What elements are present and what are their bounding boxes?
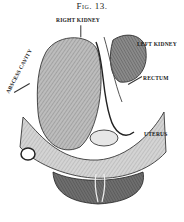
uterus-shape — [90, 130, 118, 146]
anatomical-illustration — [18, 22, 168, 206]
label-rectum: RECTUM — [143, 75, 169, 81]
label-left-kidney: LEFT KIDNEY — [137, 41, 177, 47]
figure-title: Fig. 13. — [0, 1, 184, 11]
label-right-kidney: RIGHT KIDNEY — [56, 17, 100, 23]
leader-line-right-kidney — [81, 25, 82, 37]
label-uterus: UTERUS — [144, 131, 168, 137]
